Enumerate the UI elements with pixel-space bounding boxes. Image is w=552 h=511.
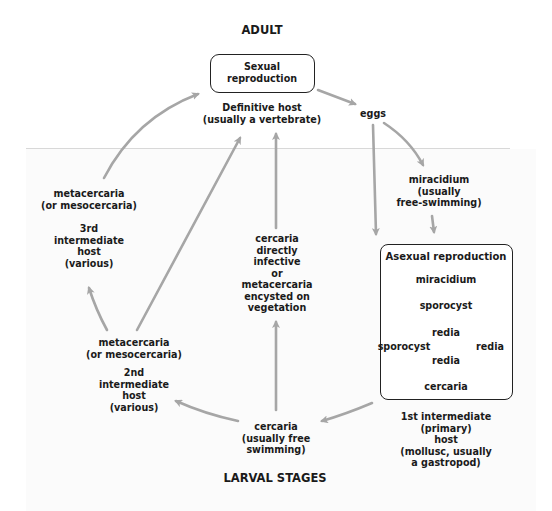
asexual-redia-center-2: redia (432, 355, 460, 367)
asexual-sporocyst-top: sporocyst (420, 300, 473, 312)
asexual-cercaria: cercaria (424, 381, 468, 393)
arrow-eggs-to-miracidium (384, 123, 423, 165)
arrow-second-host-to-definitive (137, 138, 240, 330)
first-intermediate-host-label: 1st intermediate (primary) host (mollusc… (400, 411, 491, 469)
sexual-reproduction-label: Sexual reproduction (227, 61, 297, 84)
second-intermediate-host-label: 2nd intermediate host (various) (99, 367, 169, 413)
second-host-stage-label: metacercaria (or mesocercaria) (86, 337, 182, 360)
cercaria-directly-infective-label: cercaria directly infective or metacerca… (241, 233, 312, 314)
third-host-stage-label: metacercaria (or mesocercaria) (41, 188, 137, 211)
arrow-asexual-to-cercaria (322, 403, 372, 421)
asexual-sporocyst-left: sporocyst (378, 341, 431, 353)
asexual-redia-center-1: redia (432, 327, 460, 339)
arrow-third-host-to-definitive (104, 94, 198, 178)
arrow-miracidium-to-asexual (432, 216, 434, 232)
eggs-label: eggs (360, 108, 386, 120)
asexual-miracidium: miracidium (416, 274, 476, 286)
miracidium-free-swimming-label: miracidium (usually free-swimming) (396, 174, 481, 209)
definitive-host-label: Definitive host (usually a vertebrate) (203, 102, 321, 125)
asexual-redia-right: redia (476, 341, 504, 353)
larval-stages-title: LARVAL STAGES (223, 473, 326, 485)
asexual-reproduction-box (380, 244, 513, 400)
arrow-sexual-to-eggs (318, 90, 355, 104)
arrow-eggs-to-asexual (373, 125, 376, 234)
cercaria-free-swimming-label: cercaria (usually free swimming) (242, 421, 310, 456)
arrow-cercaria-to-second-host (176, 401, 238, 421)
asexual-reproduction-title: Asexual reproduction (386, 251, 507, 263)
third-intermediate-host-label: 3rd intermediate host (various) (54, 223, 124, 269)
adult-title: ADULT (241, 25, 282, 37)
arrow-second-host-to-third-host (89, 288, 107, 330)
